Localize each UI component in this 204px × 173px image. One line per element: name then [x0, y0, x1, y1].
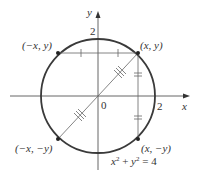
point-q1	[136, 51, 140, 55]
y-axis-arrow-icon	[96, 11, 101, 18]
label-q3: (−x, −y)	[15, 142, 53, 155]
point-q3	[56, 137, 60, 141]
point-q2	[56, 51, 60, 55]
circle-equation: x2 + y2 = 4	[110, 155, 157, 167]
x-axis-label: x	[181, 100, 187, 112]
y-tick-2: 2	[90, 25, 96, 37]
origin-label: 0	[101, 99, 107, 111]
circle-symmetry-diagram: y x 0 2 2 (x, y) (−x, y) (−x, −y) (x, −y…	[0, 0, 204, 173]
label-q2: (−x, y)	[22, 39, 52, 52]
label-q4: (x, −y)	[141, 142, 171, 155]
x-axis-arrow-icon	[183, 94, 190, 99]
x-tick-2: 2	[157, 100, 163, 112]
label-q1: (x, y)	[140, 39, 163, 52]
point-q4	[136, 137, 140, 141]
y-axis-label: y	[86, 6, 92, 18]
